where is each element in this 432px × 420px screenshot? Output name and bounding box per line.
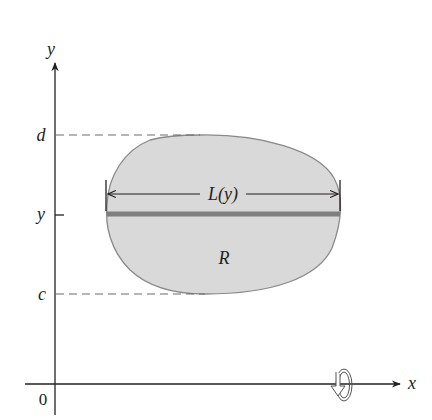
- origin-label: 0: [39, 390, 48, 409]
- tick-label-c: c: [38, 284, 46, 304]
- x-axis-label: x: [407, 373, 416, 393]
- solid-of-revolution-diagram: L(y) R y d y c x 0: [0, 0, 432, 420]
- rotation-about-x-axis-icon: [331, 369, 352, 401]
- length-label: L(y): [207, 184, 238, 205]
- region-label: R: [218, 248, 230, 268]
- tick-label-y: y: [35, 204, 45, 224]
- tick-label-d: d: [37, 125, 47, 145]
- y-axis-label: y: [45, 39, 55, 59]
